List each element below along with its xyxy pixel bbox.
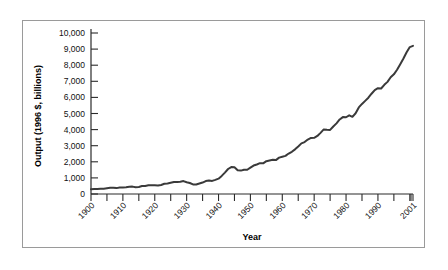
y-tick-label: 2,000: [64, 157, 86, 167]
chart-page: 01,0002,0003,0004,0005,0006,0007,0008,00…: [0, 0, 448, 270]
y-tick-label: 3,000: [64, 141, 86, 151]
x-axis-title: Year: [242, 232, 262, 242]
y-tick-label: 10,000: [59, 28, 85, 38]
y-axis-tick-labels: 01,0002,0003,0004,0005,0006,0007,0008,00…: [59, 28, 85, 199]
y-tick-label: 5,000: [64, 109, 86, 119]
y-axis-title: Output (1996 $, billions): [33, 65, 43, 167]
y-tick-label: 7,000: [64, 76, 86, 86]
figure-frame: 01,0002,0003,0004,0005,0006,0007,0008,00…: [22, 20, 425, 248]
y-tick-label: 4,000: [64, 125, 86, 135]
y-tick-label: 8,000: [64, 60, 86, 70]
y-tick-label: 6,000: [64, 92, 86, 102]
y-tick-label: 1,000: [64, 173, 86, 183]
y-tick-label: 0: [80, 189, 85, 199]
y-tick-label: 9,000: [64, 44, 86, 54]
output-vs-year-line-chart: 01,0002,0003,0004,0005,0006,0007,0008,00…: [23, 21, 424, 247]
